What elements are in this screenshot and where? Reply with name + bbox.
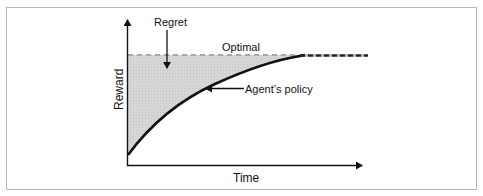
agents-policy-label: Agent’s policy: [245, 83, 313, 95]
optimal-label: Optimal: [222, 41, 260, 53]
regret-area: [128, 55, 305, 155]
y-axis-label: Reward: [112, 69, 126, 110]
x-axis-label: Time: [233, 171, 260, 185]
regret-label: Regret: [154, 16, 187, 28]
regret-diagram: Regret Optimal Agent’s policy Reward Tim…: [0, 0, 483, 196]
